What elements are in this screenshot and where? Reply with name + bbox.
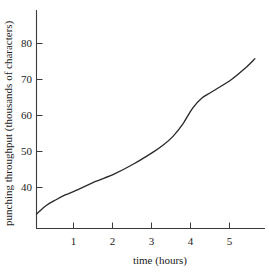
y-axis-label: punching throughput (thousands of charac…	[2, 20, 15, 226]
x-axis-label: time (hours)	[133, 254, 187, 267]
x-tick-label-1: 1	[71, 235, 77, 247]
x-tick-label-5: 5	[227, 235, 233, 247]
x-tick-label-4: 4	[188, 235, 194, 247]
y-tick-label-80: 80	[21, 37, 33, 49]
y-tick-label-50: 50	[21, 145, 33, 157]
x-axis-tick-labels: 1 2 3 4 5	[71, 235, 233, 247]
y-axis: 80 70 60 50 40 punching throughput (thou…	[2, 10, 43, 229]
y-tick-label-70: 70	[21, 73, 33, 85]
x-tick-label-3: 3	[149, 235, 155, 247]
throughput-curve	[37, 59, 255, 215]
x-axis-ticks	[74, 223, 230, 229]
x-tick-label-2: 2	[110, 235, 116, 247]
chart-figure: 80 70 60 50 40 punching throughput (thou…	[0, 0, 269, 272]
y-tick-label-60: 60	[21, 109, 33, 121]
line-chart-plot: 80 70 60 50 40 punching throughput (thou…	[0, 0, 269, 272]
x-axis: 1 2 3 4 5 time (hours)	[36, 223, 265, 268]
y-tick-label-40: 40	[21, 181, 33, 193]
y-axis-tick-labels: 80 70 60 50 40	[21, 37, 33, 193]
y-axis-ticks	[37, 44, 43, 188]
